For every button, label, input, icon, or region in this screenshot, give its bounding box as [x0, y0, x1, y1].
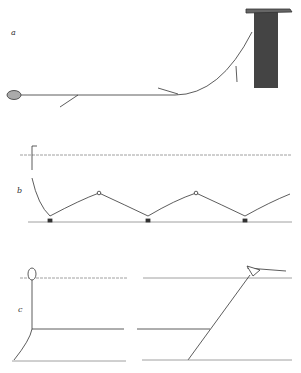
panel-label-b: b — [17, 186, 22, 195]
net-bundle-icon — [254, 12, 278, 88]
panel-label-a: a — [11, 28, 16, 37]
buoy-icon — [28, 268, 36, 280]
panel-a-drawing — [7, 9, 292, 107]
panel-c-drawing — [12, 266, 292, 361]
diagram-canvas — [0, 0, 301, 373]
panel-label-c: c — [18, 305, 22, 314]
stone-anchor-icon — [7, 91, 21, 100]
panel-b-drawing — [20, 146, 292, 222]
boat-icon — [247, 266, 260, 276]
